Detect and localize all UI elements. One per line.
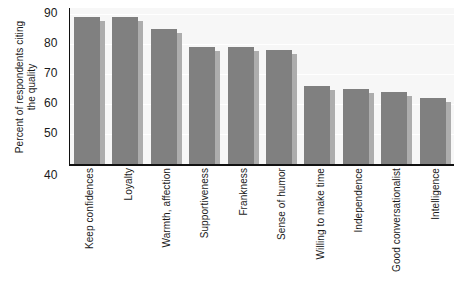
x-axis-tick-labels: Keep confidencesLoyaltyWarmth, affection… <box>70 168 454 283</box>
y-axis-tick-labels: 908070605040 <box>42 0 70 190</box>
x-tick-label-slot: Independence <box>339 168 377 283</box>
x-tick-label-slot: Good conversationalist <box>377 168 415 283</box>
x-tick-label: Loyalty <box>122 168 133 200</box>
bar-group <box>151 8 189 164</box>
x-tick-label-slot: Supportiveness <box>185 168 223 283</box>
x-tick-label-slot: Sense of humor <box>262 168 300 283</box>
y-tick-label: 50 <box>44 127 70 139</box>
y-tick-label: 80 <box>44 37 70 49</box>
bar-shadow <box>330 90 335 164</box>
x-tick-label-slot: Willing to make time <box>300 168 338 283</box>
x-tick-label: Good conversationalist <box>391 168 402 272</box>
x-tick-label-slot: Loyalty <box>108 168 146 283</box>
x-tick-label-slot: Intelligence <box>416 168 454 283</box>
bar-group <box>74 8 112 164</box>
x-tick-label: Frankness <box>237 168 248 216</box>
bar-group <box>189 8 227 164</box>
bar-group <box>266 8 304 164</box>
bar <box>381 92 407 164</box>
x-tick-label-slot: Keep confidences <box>70 168 108 283</box>
bar-shadow <box>177 33 182 164</box>
bar <box>228 47 254 164</box>
bar <box>151 29 177 164</box>
bar-group <box>304 8 342 164</box>
y-tick-label: 90 <box>44 7 70 19</box>
bar-group <box>381 8 419 164</box>
bar <box>266 50 292 164</box>
x-tick-label-slot: Frankness <box>224 168 262 283</box>
bar-group <box>343 8 381 164</box>
x-tick-label-slot: Warmth, affection <box>147 168 185 283</box>
bar <box>189 47 215 164</box>
bar-shadow <box>138 21 143 164</box>
y-axis-title-line1: Percent of respondents citing <box>14 21 25 153</box>
y-axis-title: Percent of respondents citing the qualit… <box>6 8 46 166</box>
x-axis-line <box>69 164 454 166</box>
bar-group <box>112 8 150 164</box>
bar-shadow <box>215 51 220 164</box>
x-tick-label: Keep confidences <box>84 168 95 249</box>
y-axis-title-line2: the quality <box>26 21 38 153</box>
plot-inner <box>70 8 454 164</box>
bar-shadow <box>292 54 297 164</box>
bar <box>420 98 446 164</box>
plot-area <box>70 8 454 164</box>
x-tick-label: Willing to make time <box>314 168 325 259</box>
y-tick-label: 70 <box>44 67 70 79</box>
chart-figure: Percent of respondents citing the qualit… <box>0 0 458 285</box>
x-tick-label: Intelligence <box>429 168 440 220</box>
y-tick-label: 40 <box>44 169 70 181</box>
bar-group <box>420 8 458 164</box>
bar-shadow <box>407 96 412 164</box>
bar <box>304 86 330 164</box>
x-tick-label: Sense of humor <box>276 168 287 240</box>
x-tick-label: Warmth, affection <box>160 168 171 248</box>
bar-shadow <box>446 102 451 164</box>
x-tick-label: Supportiveness <box>199 168 210 238</box>
bar <box>112 17 138 164</box>
bar-shadow <box>254 51 259 164</box>
bar <box>74 17 100 164</box>
x-tick-label: Independence <box>352 168 363 233</box>
y-tick-label: 60 <box>44 97 70 109</box>
bar-shadow <box>100 21 105 164</box>
bar-group <box>228 8 266 164</box>
bar-shadow <box>369 93 374 164</box>
bar <box>343 89 369 164</box>
